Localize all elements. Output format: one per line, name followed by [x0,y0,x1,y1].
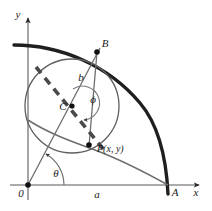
point-origin-marker [25,182,31,188]
x-axis-label: x [193,186,199,198]
point-a-label: A [171,186,179,198]
point-c-marker [69,103,74,108]
dashed-trammel-rod [36,67,104,150]
point-b-label: B [102,37,109,49]
dashed-rod-group [36,67,104,150]
geometry-figure: y x 0 A B C P(x, y) a b θ ϕ [0,0,212,211]
origin-label: 0 [18,187,24,199]
segment-a-label: a [94,188,100,200]
labels-group: y x 0 A B C P(x, y) a b θ ϕ [15,8,199,200]
point-p-label: P(x, y) [96,143,124,155]
angle-phi-label: ϕ [90,93,96,105]
angle-theta-label: θ [53,167,59,179]
point-p-marker [86,142,92,148]
point-c-label: C [59,100,67,112]
point-b-marker [94,49,100,55]
segment-b-label: b [78,71,84,83]
y-axis-label: y [15,8,21,20]
figure-canvas: y x 0 A B C P(x, y) a b θ ϕ [0,0,212,211]
